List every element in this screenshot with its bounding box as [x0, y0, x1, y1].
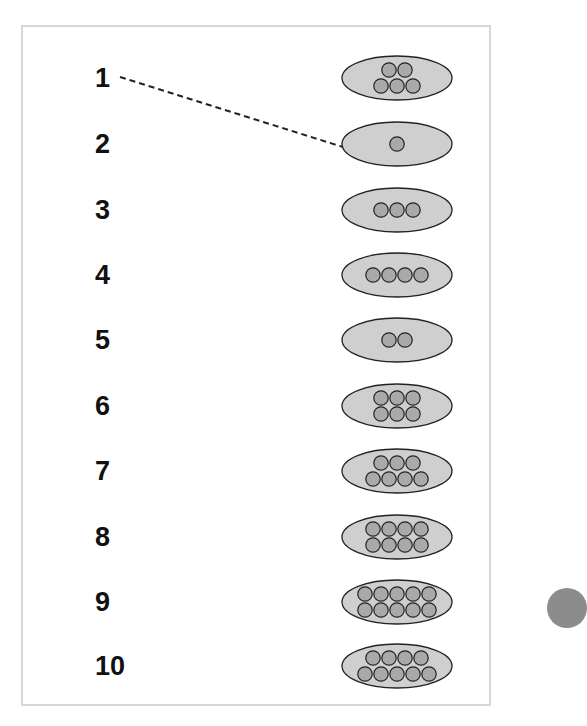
dot-icon [398, 538, 412, 552]
dot-set-4[interactable] [342, 253, 452, 297]
dot-icon [382, 333, 396, 347]
dot-set-9[interactable] [342, 580, 452, 624]
dot-icon [398, 522, 412, 536]
dot-set-10[interactable] [342, 644, 452, 688]
dot-icon [374, 587, 388, 601]
dot-icon [374, 667, 388, 681]
dot-icon [390, 456, 404, 470]
dot-icon [398, 268, 412, 282]
dot-icon [406, 603, 420, 617]
dot-icon [374, 456, 388, 470]
dot-icon [406, 587, 420, 601]
dot-icon [366, 538, 380, 552]
dot-icon [366, 472, 380, 486]
set-ellipse[interactable] [342, 318, 452, 362]
dot-icon [390, 79, 404, 93]
dot-icon [374, 603, 388, 617]
dot-icon [406, 391, 420, 405]
dot-set-5[interactable] [342, 318, 452, 362]
dot-set-3[interactable] [342, 188, 452, 232]
dot-icon [414, 651, 428, 665]
dot-icon [406, 667, 420, 681]
dot-icon [382, 268, 396, 282]
dot-icon [398, 472, 412, 486]
dot-set-1[interactable] [342, 56, 452, 100]
dot-icon [414, 522, 428, 536]
set-ellipse[interactable] [342, 515, 452, 559]
dot-icon [366, 522, 380, 536]
dot-icon [390, 391, 404, 405]
dot-set-7[interactable] [342, 449, 452, 493]
dot-icon [382, 522, 396, 536]
dot-icon [374, 391, 388, 405]
dot-icon [382, 63, 396, 77]
dot-icon [374, 79, 388, 93]
dot-icon [406, 79, 420, 93]
dot-icon [422, 603, 436, 617]
set-ellipse[interactable] [342, 253, 452, 297]
match-connector-line[interactable] [120, 77, 343, 147]
dot-set-2[interactable] [342, 122, 452, 166]
dot-icon [390, 137, 404, 151]
dot-icon [390, 603, 404, 617]
dot-icon [366, 268, 380, 282]
dot-icon [390, 667, 404, 681]
dot-icon [358, 587, 372, 601]
dot-icon [390, 203, 404, 217]
dot-icon [422, 667, 436, 681]
dot-icon [406, 407, 420, 421]
dot-icon [382, 538, 396, 552]
dot-icon [398, 333, 412, 347]
dot-icon [406, 203, 420, 217]
dot-icon [422, 587, 436, 601]
dot-icon [414, 538, 428, 552]
dot-icon [414, 268, 428, 282]
dot-icon [366, 651, 380, 665]
dot-icon [398, 63, 412, 77]
dot-icon [390, 407, 404, 421]
dot-icon [374, 203, 388, 217]
dot-icon [382, 472, 396, 486]
dot-icon [382, 651, 396, 665]
dot-icon [358, 603, 372, 617]
dot-icon [390, 587, 404, 601]
offscreen-circle-button[interactable] [547, 588, 587, 628]
dot-icon [406, 456, 420, 470]
dot-set-8[interactable] [342, 515, 452, 559]
dot-icon [358, 667, 372, 681]
dot-icon [398, 651, 412, 665]
dot-icon [374, 407, 388, 421]
dot-set-6[interactable] [342, 384, 452, 428]
dot-icon [414, 472, 428, 486]
